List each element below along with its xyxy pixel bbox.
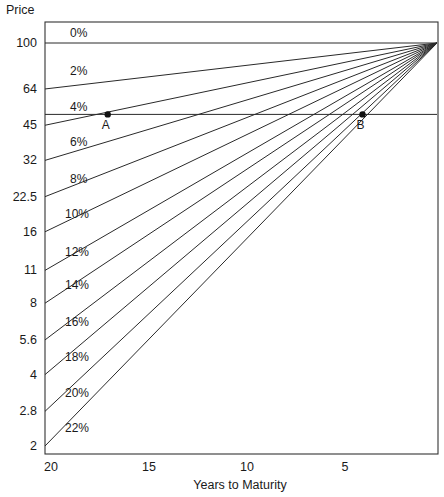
yield-label: 18%: [65, 350, 89, 364]
yield-line-20pct: [45, 43, 437, 411]
yield-line-10pct: [45, 43, 437, 232]
point-label: B: [357, 118, 365, 132]
yield-label: 4%: [70, 100, 88, 114]
yield-label: 6%: [70, 135, 88, 149]
yield-label: 2%: [70, 64, 88, 78]
yield-label: 14%: [65, 278, 89, 292]
y-tick-label: 8: [30, 296, 37, 310]
yield-line-6pct: [45, 43, 437, 160]
yield-label: 22%: [65, 421, 89, 435]
yield-line-12pct: [45, 43, 437, 270]
y-tick-label: 32: [23, 153, 37, 167]
y-tick-label: 64: [23, 82, 37, 96]
yield-line-22pct: [45, 43, 437, 446]
y-tick-label: 11: [24, 263, 37, 277]
y-tick-label: 5.6: [20, 333, 37, 347]
y-tick-label: 2.8: [20, 404, 37, 418]
point-b: [359, 111, 365, 117]
yield-line-4pct: [45, 43, 437, 125]
y-tick-label: 22.5: [13, 190, 37, 204]
yield-label: 16%: [65, 315, 89, 329]
y-tick-label: 100: [16, 36, 37, 50]
y-tick-label: 45: [23, 118, 37, 132]
x-axis-title: Years to Maturity: [193, 478, 287, 492]
yield-label: 12%: [65, 245, 89, 259]
point-a: [105, 111, 111, 117]
y-axis-title: Price: [6, 3, 35, 17]
x-tick-label: 5: [342, 460, 349, 474]
yield-label: 0%: [70, 26, 88, 40]
point-label: A: [102, 118, 110, 132]
yield-label: 8%: [70, 172, 88, 186]
yield-label: 10%: [65, 207, 89, 221]
x-tick-label: 10: [240, 460, 254, 474]
y-tick-label: 16: [23, 225, 37, 239]
x-tick-label: 20: [44, 460, 58, 474]
y-tick-label: 4: [30, 368, 37, 382]
yield-line-16pct: [45, 43, 437, 340]
yield-label: 20%: [65, 386, 89, 400]
yield-line-18pct: [45, 43, 437, 375]
x-tick-label: 15: [142, 460, 156, 474]
bond-price-chart: Price 10064453222.5161185.642.82 2015105…: [0, 0, 444, 497]
y-tick-label: 2: [30, 439, 37, 453]
